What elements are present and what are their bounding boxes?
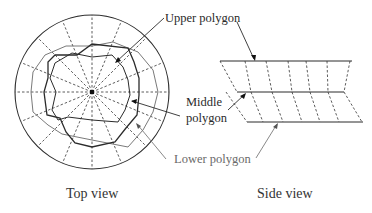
center-point [90, 90, 94, 94]
lower-leader-side [256, 124, 277, 158]
top-view [15, 15, 180, 169]
middle-polygon-label-line2: polygon [186, 112, 227, 125]
arrowhead [273, 123, 278, 129]
upper-leader-top [116, 18, 164, 62]
side-view [220, 22, 363, 158]
middle-polygon-label-line1: Middle [186, 96, 222, 109]
top-view-caption: Top view [66, 186, 118, 202]
lower-polygon-label: Lower polygon [174, 153, 251, 166]
upper-polygon-label: Upper polygon [165, 12, 240, 25]
side-view-caption: Side view [257, 186, 313, 202]
arrowhead [131, 99, 137, 104]
middle-leader-top [132, 101, 180, 116]
arrowhead [251, 55, 256, 61]
upper-leader-side [237, 22, 254, 59]
